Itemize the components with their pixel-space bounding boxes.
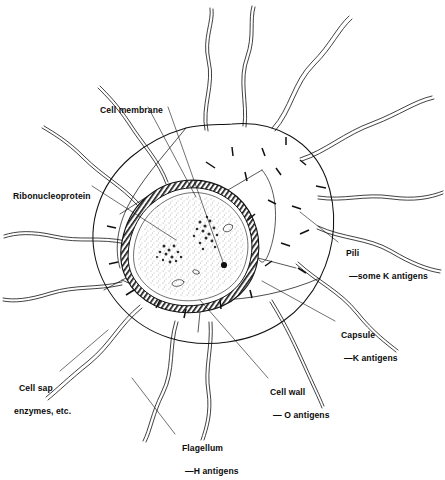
label-cell-membrane: Cell membrane xyxy=(95,93,163,116)
label-cell-sap: Cell sap enzymes, etc. xyxy=(14,371,71,429)
label-capsule-sub: —K antigens xyxy=(344,353,398,365)
label-flagellum: Flagellum —H antigens xyxy=(177,431,239,480)
label-cell-wall: Cell wall — O antigens xyxy=(265,375,330,433)
label-cell-membrane-text: Cell membrane xyxy=(100,105,163,115)
label-capsule: Capsule —K antigens xyxy=(336,318,398,376)
label-pili: Pili —some K antigens xyxy=(341,236,428,294)
label-flagellum-main: Flagellum xyxy=(182,443,223,453)
label-cell-sap-sub: enzymes, etc. xyxy=(14,406,71,418)
label-ribonucleoprotein-text: Ribonucleoprotein xyxy=(13,191,91,201)
label-pili-main: Pili xyxy=(346,248,359,258)
label-cell-wall-sub: — O antigens xyxy=(273,410,330,422)
label-capsule-main: Capsule xyxy=(341,330,375,340)
label-pili-sub: —some K antigens xyxy=(349,271,428,283)
label-flagellum-sub: —H antigens xyxy=(185,466,239,478)
label-cell-wall-main: Cell wall xyxy=(270,387,305,397)
label-ribonucleoprotein: Ribonucleoprotein xyxy=(8,179,91,202)
label-cell-sap-main: Cell sap xyxy=(19,383,53,393)
